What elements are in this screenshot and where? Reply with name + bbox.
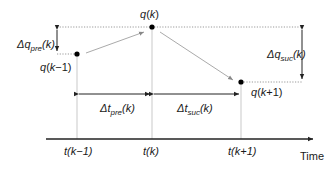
label-q-k-minus-1: q(k−1) (40, 61, 72, 73)
trajectory-prev-to-curr (86, 32, 144, 53)
point-q-k (149, 24, 154, 29)
axis-label-time: Time (300, 150, 324, 162)
trajectory-curr-to-next (160, 32, 233, 80)
tick-label-t-k-minus-1: t(k−1) (64, 145, 93, 157)
label-dq-suc: Δqsuc(k) (266, 48, 306, 63)
tick-label-t-k-plus-1: t(k+1) (228, 145, 257, 157)
label-q-k: q(k) (140, 8, 159, 20)
point-q-k-minus-1 (74, 51, 79, 56)
label-dt-pre: Δtpre(k) (99, 102, 135, 117)
label-dq-pre: Δqpre(k) (16, 38, 55, 53)
point-q-k-plus-1 (238, 79, 243, 84)
time-series-diagram: q(k−1) q(k) q(k+1) Δqpre(k) Δqsuc(k) Δtp… (0, 0, 335, 169)
label-q-k-plus-1: q(k+1) (251, 86, 283, 98)
label-dt-suc: Δtsuc(k) (176, 102, 213, 117)
tick-label-t-k: t(k) (143, 145, 159, 157)
